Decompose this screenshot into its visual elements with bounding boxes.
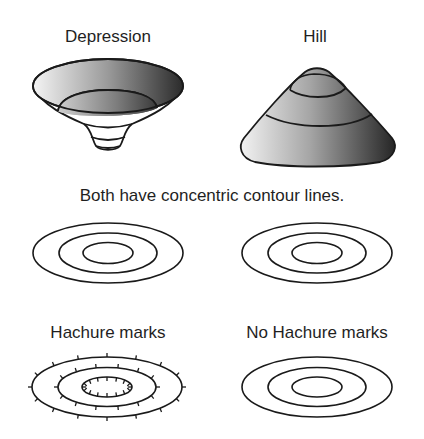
hachure-tick	[176, 373, 179, 376]
concentric-left	[33, 223, 183, 283]
hachure-tick	[123, 380, 124, 384]
hachure-tick	[138, 368, 139, 372]
hachure-tick	[136, 415, 137, 419]
hachure-tick	[60, 375, 63, 378]
hachure-tick	[78, 355, 79, 359]
hachure-tick	[97, 392, 98, 396]
hachure-tick	[35, 398, 38, 401]
hachure-tick	[78, 415, 79, 419]
hachure-tick	[84, 383, 87, 386]
hachure-tick	[151, 395, 154, 398]
hachure-tick	[35, 373, 38, 376]
hachure-tick	[151, 375, 154, 378]
hill-figure	[241, 68, 395, 166]
hachure-tick	[116, 392, 117, 396]
no-hachure-map	[242, 357, 392, 417]
hachure-tick	[127, 388, 130, 391]
depression-figure	[33, 59, 183, 150]
hachure-tick	[89, 380, 90, 384]
hachure-tick	[123, 390, 124, 394]
hachure-tick	[89, 390, 90, 394]
hachure-map	[28, 353, 186, 421]
hachure-tick	[160, 408, 161, 412]
hachure-tick	[116, 378, 117, 382]
hachure-tick	[136, 355, 137, 359]
hachure-tick	[52, 408, 53, 412]
hachure-tick	[75, 402, 76, 406]
diagram-canvas	[0, 0, 424, 439]
hachure-tick	[127, 383, 130, 386]
hachure-tick	[60, 395, 63, 398]
hachure-tick	[138, 402, 139, 406]
hachure-tick	[160, 362, 161, 366]
hachure-tick	[52, 362, 53, 366]
concentric-right	[242, 223, 392, 283]
hachure-tick	[176, 398, 179, 401]
hachure-tick	[75, 368, 76, 372]
hachure-tick	[97, 378, 98, 382]
hachure-tick	[84, 388, 87, 391]
